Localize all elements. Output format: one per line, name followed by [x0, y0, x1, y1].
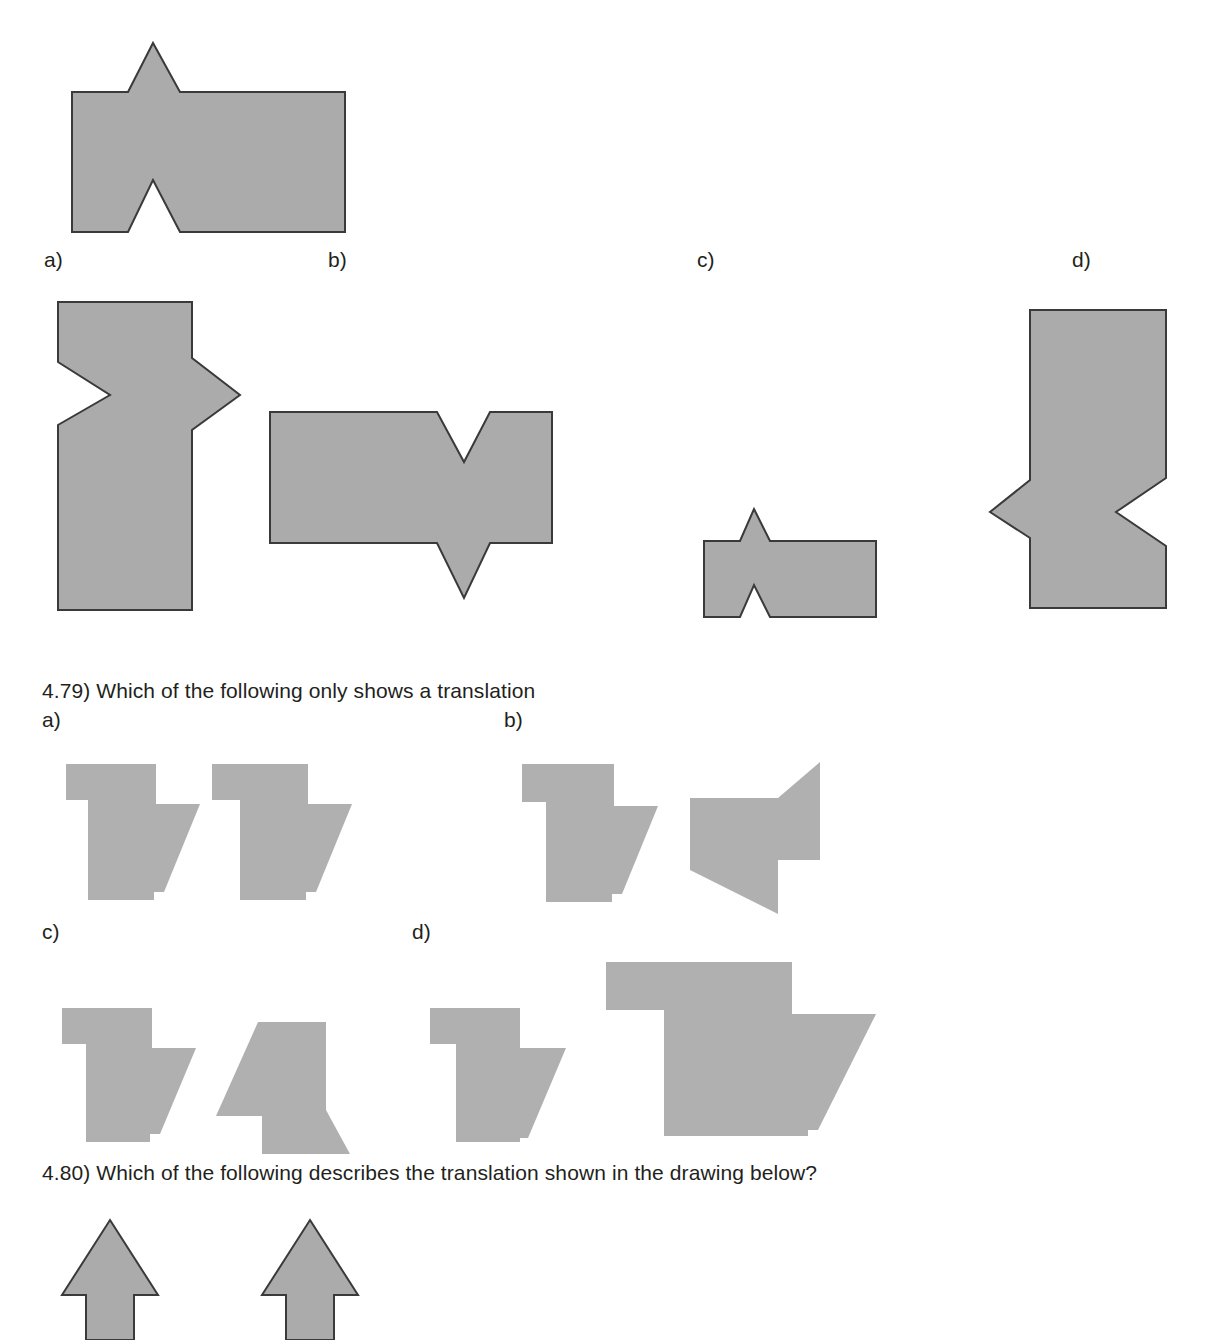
option-label-478-a: a): [44, 248, 63, 272]
option-figure-478-d: [980, 290, 1200, 615]
option-479-d-shape-large: [606, 962, 876, 1136]
option-figure-479-b: [500, 752, 840, 922]
arrow-up-image: [262, 1220, 358, 1340]
option-label-478-c: c): [697, 248, 715, 272]
option-label-478-d: d): [1072, 248, 1091, 272]
reference-figure-478: [0, 0, 420, 250]
option-figure-479-c: [50, 992, 390, 1162]
question-479-prompt: 4.79) Which of the following only shows …: [42, 678, 535, 704]
option-479-b-shape-1: [522, 764, 658, 902]
option-label-479-b: b): [504, 708, 523, 732]
option-479-a-shape-1: [66, 764, 200, 900]
option-478-c-shape: [704, 509, 876, 617]
figure-480-arrows: [50, 1205, 430, 1340]
option-479-d-shape-small: [430, 1008, 566, 1142]
option-478-d-shape: [990, 310, 1166, 608]
page-top-crop-mask: [0, 0, 1216, 18]
option-figure-478-c: [690, 495, 900, 630]
option-label-478-b: b): [328, 248, 347, 272]
option-figure-479-d: [420, 950, 880, 1165]
option-478-b-shape: [270, 412, 552, 598]
option-figure-478-b: [262, 400, 572, 615]
option-label-479-a: a): [42, 708, 61, 732]
arrow-up-original: [62, 1220, 158, 1340]
option-figure-479-a: [60, 752, 380, 917]
option-479-b-shape-2: [690, 762, 820, 914]
reference-shape: [72, 43, 345, 232]
option-label-479-c: c): [42, 920, 60, 944]
question-480-prompt: 4.80) Which of the following describes t…: [42, 1160, 817, 1186]
option-479-c-shape-1: [62, 1008, 196, 1142]
option-label-479-d: d): [412, 920, 431, 944]
option-478-a-shape: [58, 302, 240, 610]
option-479-a-shape-2: [212, 764, 352, 900]
option-figure-478-a: [40, 290, 270, 610]
option-479-c-shape-2: [216, 1022, 350, 1154]
